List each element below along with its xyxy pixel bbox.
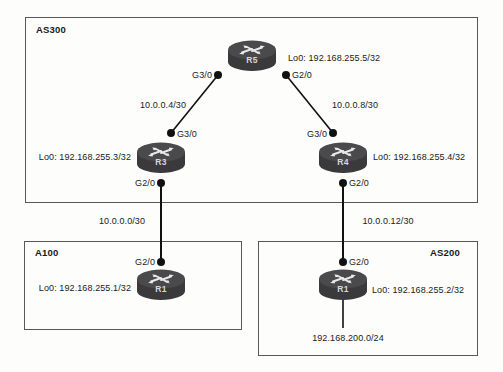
loopback-label-r4: Lo0: 192.168.255.4/32 <box>373 152 465 162</box>
loopback-label-r5: Lo0: 192.168.255.5/32 <box>288 53 380 63</box>
interface-dot-r4-g30 <box>329 129 337 137</box>
interface-dot-r3-g30 <box>167 129 175 137</box>
subnet-label-r5-r3: 10.0.0.4/30 <box>140 100 186 110</box>
subnet-label-r5-r4: 10.0.0.8/30 <box>332 100 378 110</box>
interface-dot-r1-a100-g20 <box>157 258 165 266</box>
interface-label-r4-g20: G2/0 <box>349 178 369 188</box>
interface-label-r1-a100-g20: G2/0 <box>135 257 155 267</box>
router-r5[interactable]: R5 <box>226 38 278 72</box>
network-diagram: AS300 A100 AS200 <box>0 0 503 372</box>
interface-dot-r3-g20 <box>157 179 165 187</box>
interface-dot-r5-g20 <box>282 71 290 79</box>
router-r4[interactable]: R4 <box>317 140 369 174</box>
interface-label-r5-g30: G3/0 <box>192 70 212 80</box>
interface-label-r3-g20: G2/0 <box>135 178 155 188</box>
interface-label-r5-g20: G2/0 <box>292 70 312 80</box>
loopback-label-r1-as200: Lo0: 192.168.255.2/32 <box>372 285 464 295</box>
interface-label-r4-g30: G3/0 <box>307 129 327 139</box>
loopback-label-r1-a100: Lo0: 192.168.255.1/32 <box>39 283 131 293</box>
interface-label-r3-g30: G3/0 <box>177 129 197 139</box>
stub-subnet-label-as200: 192.168.200.0/24 <box>312 333 384 343</box>
interface-dot-r1-as200-g20 <box>339 258 347 266</box>
router-r1-as200[interactable]: R1 <box>317 267 369 301</box>
router-r1-a100[interactable]: R1 <box>135 267 187 301</box>
loopback-label-r3: Lo0: 192.168.255.3/32 <box>39 152 131 162</box>
subnet-label-r3-r1: 10.0.0.0/30 <box>99 216 145 226</box>
router-r3[interactable]: R3 <box>135 140 187 174</box>
interface-dot-r5-g30 <box>214 71 222 79</box>
interface-dot-r4-g20 <box>339 179 347 187</box>
interface-label-r1-as200-g20: G2/0 <box>349 257 369 267</box>
subnet-label-r4-r1: 10.0.0.12/30 <box>362 216 413 226</box>
